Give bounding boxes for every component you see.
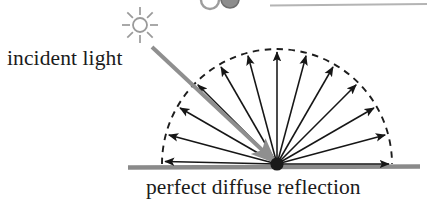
partial-circle-right-icon — [221, 0, 239, 8]
reflected-ray-015 — [277, 135, 385, 164]
partial-circle-left-icon — [201, 0, 219, 9]
top-rule-line — [270, 4, 427, 6]
diffuse-reflection-figure: incident light perfect diffuse reflectio… — [0, 0, 427, 200]
sun-disc-icon — [133, 18, 147, 32]
sun-icon — [122, 7, 158, 43]
sun-rays-icon — [122, 7, 158, 43]
reflected-rays-arrows-icon — [165, 52, 389, 164]
reflected-ray-180 — [165, 162, 277, 165]
reflected-ray-075 — [277, 56, 306, 164]
surface-point-dot-icon — [270, 157, 283, 170]
top-edge-artifacts — [201, 0, 427, 9]
diffuse-reflection-diagram — [0, 0, 427, 200]
incident-light-label: incident light — [7, 48, 122, 70]
figure-caption: perfect diffuse reflection — [146, 177, 361, 199]
incident-ray-arrow-icon — [152, 47, 275, 162]
